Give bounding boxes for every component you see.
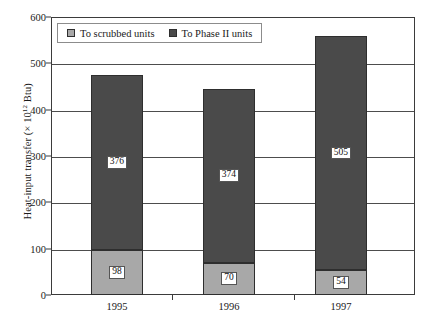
y-tick-label: 200 [12,197,46,208]
bar-segment-phase2[interactable]: 505 [315,36,367,270]
y-tick-label: 500 [12,58,46,69]
legend-label-scrubbed: To scrubbed units [80,28,155,39]
bar-segment-phase2[interactable]: 376 [91,75,143,249]
y-tick-label: 400 [12,104,46,115]
bar-value-label: 70 [221,272,237,285]
x-tick-label: 1997 [301,301,381,312]
y-tick-label: 600 [12,12,46,23]
bar-segment-scrubbed[interactable]: 70 [203,263,255,295]
bar-value-label: 505 [331,147,351,160]
x-tick-mark [172,295,173,300]
legend-entry-phase2: To Phase II units [169,28,253,39]
legend-swatch-phase2 [169,29,177,37]
bar-value-label: 54 [333,276,349,289]
y-tick-label: 300 [12,151,46,162]
bars-layer: 983767037454505 [51,17,415,295]
chart-legend: To scrubbed units To Phase II units [57,23,262,43]
legend-swatch-scrubbed [67,29,75,37]
legend-entry-scrubbed: To scrubbed units [67,28,155,39]
y-axis-title-text-after: Btu) [22,83,33,105]
x-tick-mark [294,295,295,300]
x-tick-label: 1996 [189,301,269,312]
y-tick-label: 100 [12,243,46,254]
bar-segment-scrubbed[interactable]: 54 [315,270,367,295]
stacked-bar-chart: Heat-input transfer (× 1012 Btu) 0100200… [0,0,428,327]
bar-value-label: 376 [107,156,127,169]
bar-value-label: 98 [109,266,125,279]
x-tick-label: 1995 [77,301,157,312]
bar-segment-scrubbed[interactable]: 98 [91,250,143,295]
bar-segment-phase2[interactable]: 374 [203,89,255,262]
legend-label-phase2: To Phase II units [182,28,253,39]
bar-value-label: 374 [219,169,239,182]
y-tick-label: 0 [12,290,46,301]
